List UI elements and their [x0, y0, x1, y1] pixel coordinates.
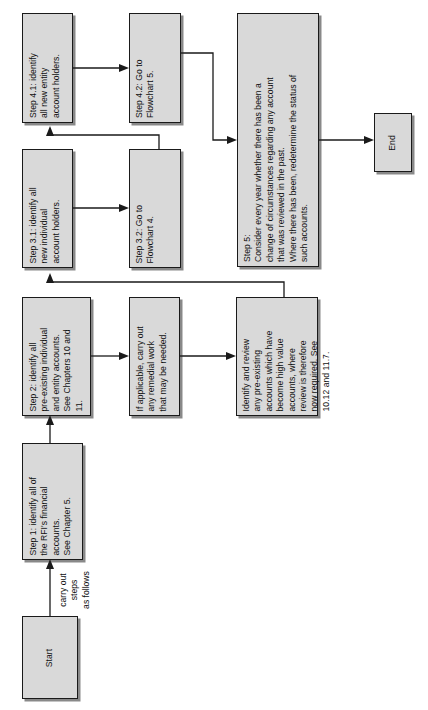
- node-step-2-textwrap: Step 2: identify all pre-existing indivi…: [27, 302, 86, 411]
- node-end-label: End: [387, 135, 398, 150]
- node-end[interactable]: End: [374, 113, 412, 172]
- node-start[interactable]: Start: [22, 616, 78, 699]
- node-step-4-1-textwrap: Step 4.1: identify all new entity accoun…: [27, 18, 68, 118]
- connector-step1-to-step2: [46, 415, 54, 443]
- connector-review-to-step31: [46, 273, 284, 297]
- node-step-5[interactable]: Step 5: Consider every year whether ther…: [237, 13, 319, 267]
- node-step-5-textwrap: Step 5: Consider every year whether ther…: [242, 18, 314, 262]
- connector-step5-to-end: [319, 136, 374, 144]
- edge-label-carry-out-steps: carry out steps as follows: [58, 566, 92, 614]
- node-step-4-2[interactable]: Step 4.2: Go to Flowchart 5.: [129, 13, 181, 123]
- edge-label-carry-out-steps-textwrap: carry out steps as follows: [58, 566, 92, 614]
- node-step-3-1-textwrap: Step 3.1: identify all new individual ac…: [27, 154, 68, 263]
- node-start-label: Start: [44, 648, 55, 666]
- edge-label-carry-out-steps-text: carry out steps as follows: [58, 566, 92, 614]
- node-step-3-1-label: Step 3.1: identify all new individual ac…: [27, 187, 61, 263]
- connector-step31-to-step32: [73, 204, 129, 212]
- flowchart-canvas: Start Step 1: identify all of the RFI's …: [0, 0, 428, 710]
- node-remedial-work-textwrap: If applicable, carry out any remedial wo…: [134, 302, 175, 411]
- node-step-4-1-label: Step 4.1: identify all new entity accoun…: [27, 53, 61, 118]
- node-step-1[interactable]: Step 1: identify all of the RFI's financ…: [22, 443, 83, 560]
- node-start-textwrap: Start: [27, 621, 73, 694]
- node-step-3-2[interactable]: Step 3.2: Go to Flowchart 4.: [129, 149, 181, 268]
- node-step-4-2-textwrap: Step 4.2: Go to Flowchart 5.: [134, 18, 176, 118]
- node-step-4-1[interactable]: Step 4.1: identify all new entity accoun…: [22, 13, 73, 123]
- node-step-2[interactable]: Step 2: identify all pre-existing indivi…: [22, 297, 91, 416]
- connector-start-to-step1: [46, 559, 54, 616]
- node-step-3-2-label: Step 3.2: Go to Flowchart 4.: [134, 204, 157, 263]
- node-remedial-work-label: If applicable, carry out any remedial wo…: [134, 326, 168, 411]
- node-step-3-1[interactable]: Step 3.1: identify all new individual ac…: [22, 149, 73, 268]
- node-identify-and-review-label: Identify and review any pre-existing acc…: [241, 330, 332, 411]
- node-identify-and-review-textwrap: Identify and review any pre-existing acc…: [241, 302, 313, 411]
- connector-remedial-to-review: [180, 352, 236, 360]
- node-identify-and-review[interactable]: Identify and review any pre-existing acc…: [236, 297, 318, 416]
- connector-step32-to-step41: [46, 126, 159, 149]
- node-step-1-textwrap: Step 1: identify all of the RFI's financ…: [27, 448, 78, 555]
- node-step-1-label: Step 1: identify all of the RFI's financ…: [27, 476, 73, 555]
- connector-step2-to-remedial: [91, 352, 129, 360]
- node-remedial-work[interactable]: If applicable, carry out any remedial wo…: [129, 297, 180, 416]
- node-step-4-2-label: Step 4.2: Go to Flowchart 5.: [134, 59, 157, 118]
- node-end-textwrap: End: [379, 118, 407, 167]
- connector-step42-to-step5: [181, 53, 237, 144]
- node-step-2-label: Step 2: identify all pre-existing indivi…: [27, 327, 84, 411]
- connector-step41-to-step42: [73, 64, 129, 72]
- node-step-3-2-textwrap: Step 3.2: Go to Flowchart 4.: [134, 154, 176, 263]
- node-step-5-label: Step 5: Consider every year whether ther…: [242, 75, 310, 262]
